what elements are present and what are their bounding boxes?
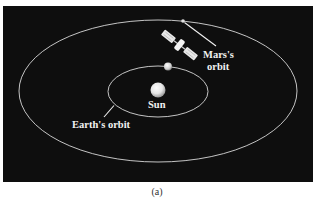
- mars-icon: [181, 19, 185, 23]
- earth-orbit-leader-line: [104, 106, 114, 118]
- mars-orbit-leader-line: [185, 23, 217, 47]
- spacecraft-icon: [159, 27, 199, 62]
- mars-orbit-label-line1: Mars's: [203, 49, 234, 60]
- sun-icon: [151, 83, 166, 98]
- mars-orbit-label-line2: orbit: [207, 61, 229, 72]
- sun-label: Sun: [148, 99, 166, 110]
- earth-icon: [164, 63, 172, 71]
- earth-orbit-label: Earth's orbit: [72, 119, 130, 130]
- figure-caption: (a): [0, 186, 314, 197]
